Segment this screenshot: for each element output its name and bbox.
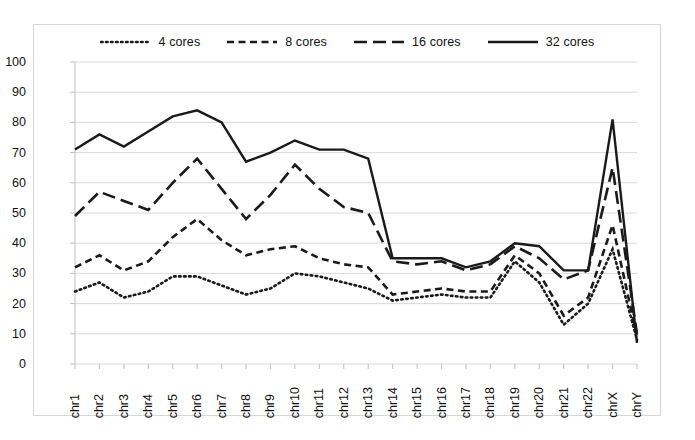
x-axis-label: chr21 [557,387,571,418]
x-axis-label: chr20 [532,387,546,418]
x-axis-label: chr11 [312,388,326,418]
x-axis-label: chr9 [263,394,277,418]
legend-item-8-cores[interactable]: 8 cores [226,35,327,49]
x-axis-label: chr6 [190,394,204,418]
x-axis-label: chr15 [410,387,424,418]
legend-label: 8 cores [285,35,327,49]
legend-item-4-cores[interactable]: 4 cores [100,35,201,49]
x-axis-label: chr4 [141,394,155,418]
x-axis-label: chr22 [581,387,595,418]
legend-label: 4 cores [159,35,201,49]
plot-area [75,62,637,364]
legend-item-32-cores[interactable]: 32 cores [487,35,595,49]
y-axis-label: 0 [19,357,26,371]
chart-container: 4 cores8 cores16 cores32 cores 010203040… [33,24,661,416]
y-axis: 0102030405060708090100 [0,62,32,364]
x-axis-label: chr19 [508,387,522,418]
x-axis-label: chr8 [239,394,253,418]
x-axis-label: chr16 [435,387,449,418]
y-axis-label: 80 [12,115,26,129]
legend-label: 16 cores [412,35,461,49]
y-axis-label: 60 [12,176,26,190]
y-axis-label: 40 [12,236,26,250]
chart-legend: 4 cores8 cores16 cores32 cores [34,35,660,49]
x-axis-label: chr2 [92,394,106,418]
legend-swatch-solid-icon [487,36,539,48]
x-axis-label: chr18 [483,387,497,418]
legend-swatch-dashed-short-icon [226,36,278,48]
x-axis-label: chr17 [459,387,473,418]
legend-label: 32 cores [546,35,595,49]
x-axis-label: chr1 [68,394,82,418]
legend-item-16-cores[interactable]: 16 cores [353,35,461,49]
x-axis-label: chr12 [337,387,351,418]
y-axis-label: 10 [12,327,26,341]
x-axis-label: chr10 [288,387,302,418]
y-axis-label: 50 [12,206,26,220]
x-axis-label: chr5 [166,394,180,418]
x-axis-label: chr13 [361,387,375,418]
legend-swatch-dotted-icon [100,36,152,48]
series-line-8-cores [75,219,637,337]
y-axis-label: 90 [12,85,26,99]
x-axis: chr1chr2chr3chr4chr5chr6chr7chr8chr9chr1… [75,368,637,418]
y-axis-label: 100 [5,55,26,69]
x-axis-label: chrX [606,392,620,418]
series-lines [75,62,637,364]
x-axis-label: chr3 [117,394,131,418]
y-axis-label: 20 [12,297,26,311]
legend-swatch-dashed-long-icon [353,36,405,48]
y-axis-label: 70 [12,146,26,160]
x-axis-label: chr14 [386,387,400,418]
x-axis-label: chr7 [215,394,229,418]
y-axis-label: 30 [12,266,26,280]
x-axis-label: chrY [630,392,644,418]
